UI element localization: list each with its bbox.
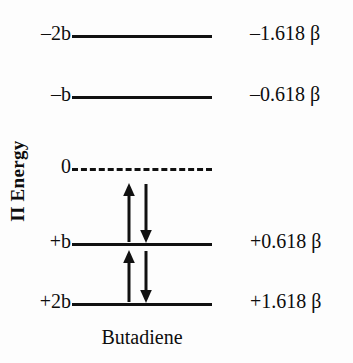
electron-pair-homo [120,183,160,243]
diagram-caption: Butadiene [36,326,248,349]
energy-level-line-dashed [72,168,212,171]
energy-level-line [72,35,212,38]
energy-level-right-label: +0.618 β [250,230,321,253]
energy-level-right-label: –1.618 β [250,22,320,45]
energy-level-left-label: –b [51,83,71,106]
energy-level-left-label: 0 [61,155,71,178]
energy-level-line [72,96,212,99]
electron-pair-homo-1 [120,250,160,303]
energy-level-diagram: Π Energy –2b –1.618 β –b –0.618 β 0 +b +… [0,0,353,363]
energy-level-left-label: +2b [40,290,71,313]
energy-level-left-label: –2b [41,22,71,45]
energy-level-line [72,303,212,306]
energy-level-right-label: +1.618 β [250,290,321,313]
electron-spin-up-arrow [123,250,135,302]
y-axis-label: Π Energy [7,101,29,261]
energy-level-right-label: –0.618 β [250,83,320,106]
energy-level-line [72,243,212,246]
electron-spin-up-arrow [123,183,135,242]
electron-spin-down-arrow [140,251,152,303]
energy-level-left-label: +b [50,230,71,253]
electron-spin-down-arrow [140,184,152,243]
